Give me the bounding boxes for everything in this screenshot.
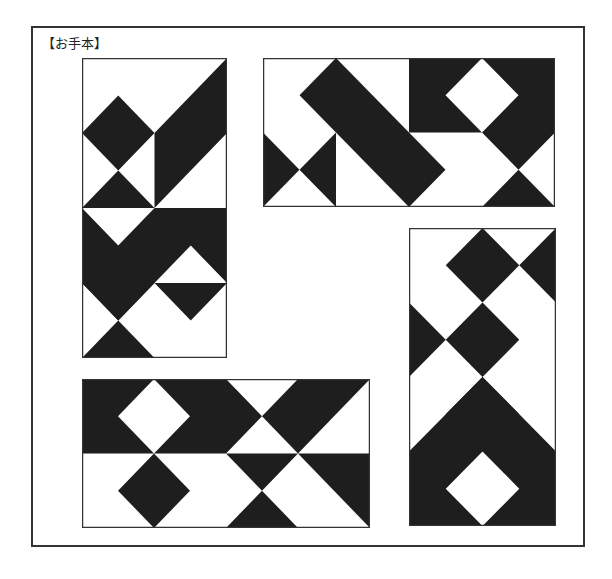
sample-label: 【お手本】 (42, 33, 107, 52)
panel-bottom-graphic (82, 379, 370, 528)
panel-right-tall-graphic (409, 228, 556, 526)
panel-top-left (82, 58, 227, 358)
panel-right-tall (409, 228, 556, 526)
panel-top-left-graphic (82, 58, 227, 358)
panel-bottom (82, 379, 370, 528)
panel-top-right (263, 58, 555, 207)
panel-top-right-graphic (263, 58, 555, 207)
